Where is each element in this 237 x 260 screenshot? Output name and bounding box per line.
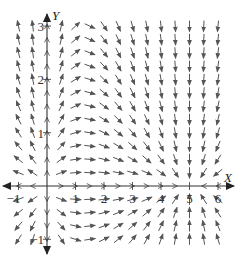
slope-arrow bbox=[16, 101, 20, 111]
slope-arrow bbox=[131, 61, 135, 71]
slope-arrow bbox=[159, 234, 163, 244]
slope-arrow bbox=[17, 47, 20, 58]
slope-arrow bbox=[71, 36, 79, 43]
slope-arrow bbox=[99, 224, 109, 228]
slope-arrow bbox=[215, 208, 221, 217]
slope-arrow bbox=[17, 88, 21, 98]
slope-arrow bbox=[101, 22, 107, 31]
slope-arrow bbox=[175, 87, 176, 98]
slope-arrow bbox=[144, 114, 149, 124]
slope-arrow bbox=[57, 209, 66, 215]
slope-arrow bbox=[31, 101, 34, 112]
slope-arrow bbox=[160, 74, 162, 85]
slope-arrow bbox=[99, 144, 109, 148]
slope-arrow bbox=[84, 159, 95, 160]
slope-arrow bbox=[70, 212, 81, 214]
slope-arrow bbox=[71, 49, 80, 56]
slope-arrow bbox=[70, 172, 81, 173]
slope-arrow bbox=[203, 127, 205, 138]
slope-arrow bbox=[131, 21, 134, 32]
x-axis-label: X bbox=[223, 170, 233, 185]
slope-arrow bbox=[70, 159, 81, 161]
x-tick-label: 3 bbox=[129, 191, 136, 206]
slope-arrow bbox=[32, 34, 33, 45]
slope-arrow bbox=[217, 114, 220, 125]
slope-arrow bbox=[146, 47, 148, 58]
slope-arrow bbox=[143, 209, 151, 216]
slope-arrow bbox=[71, 77, 80, 83]
slope-arrow bbox=[201, 195, 207, 204]
slope-arrow bbox=[100, 49, 107, 57]
slope-arrow bbox=[203, 114, 204, 125]
slope-arrow bbox=[159, 141, 164, 151]
slope-arrow bbox=[70, 131, 81, 134]
slope-arrow bbox=[173, 207, 177, 217]
slope-arrow bbox=[158, 155, 164, 164]
slope-arrow bbox=[127, 171, 138, 174]
slope-arrow bbox=[216, 127, 219, 138]
slope-arrow bbox=[160, 101, 163, 112]
slope-arrow bbox=[145, 88, 148, 98]
slope-arrow bbox=[203, 47, 204, 58]
slope-arrow bbox=[15, 142, 22, 150]
slope-arrow bbox=[115, 88, 121, 97]
slope-arrow bbox=[128, 142, 136, 149]
y-tick-label: 1 bbox=[38, 126, 45, 141]
slope-arrow bbox=[217, 47, 218, 58]
x-tick-label: 5 bbox=[186, 191, 193, 206]
x-tick-label: 4 bbox=[158, 191, 165, 206]
slope-arrow bbox=[14, 156, 23, 163]
slope-arrow bbox=[32, 61, 34, 72]
slope-arrow bbox=[142, 197, 152, 201]
slope-arrow bbox=[130, 88, 135, 98]
slope-arrow bbox=[99, 172, 110, 173]
slope-arrow bbox=[71, 104, 81, 109]
slope-arrow bbox=[203, 34, 204, 45]
slope-arrow bbox=[56, 171, 66, 175]
slope-arrow bbox=[143, 156, 151, 163]
slope-arrow bbox=[114, 143, 123, 149]
slope-arrow bbox=[217, 101, 219, 112]
slope-arrow bbox=[99, 237, 109, 242]
slope-arrow bbox=[174, 234, 176, 245]
slope-arrow bbox=[85, 64, 95, 68]
slope-arrow bbox=[70, 145, 81, 147]
slope-arrow bbox=[130, 74, 134, 84]
slope-arrow bbox=[172, 168, 178, 177]
slope-arrow bbox=[14, 209, 23, 216]
slope-arrow bbox=[114, 129, 123, 136]
y-tick-label: 2 bbox=[38, 72, 45, 87]
slope-arrow bbox=[175, 61, 176, 72]
slope-arrow bbox=[203, 141, 205, 152]
y-axis-label: Y bbox=[52, 8, 61, 23]
slope-arrow bbox=[114, 223, 123, 229]
slope-arrow bbox=[175, 74, 176, 85]
slope-arrow bbox=[175, 114, 176, 125]
slope-arrow bbox=[143, 222, 150, 231]
slope-arrow bbox=[175, 47, 176, 58]
slope-arrow bbox=[32, 47, 34, 58]
slope-arrow bbox=[17, 21, 19, 32]
slope-arrow bbox=[116, 48, 121, 58]
slope-arrow bbox=[16, 235, 22, 244]
slope-arrow bbox=[159, 128, 163, 138]
slope-arrow bbox=[203, 74, 204, 85]
slope-arrow bbox=[142, 170, 152, 174]
slope-arrow bbox=[203, 234, 205, 245]
slope-arrow bbox=[175, 34, 176, 45]
slope-arrow bbox=[203, 87, 204, 98]
slope-arrow bbox=[100, 76, 108, 84]
slope-arrow bbox=[175, 101, 176, 112]
slope-arrow bbox=[70, 225, 81, 227]
slope-arrow bbox=[203, 221, 205, 232]
slope-arrow bbox=[146, 34, 148, 45]
slope-arrow bbox=[31, 128, 35, 138]
slope-arrow bbox=[145, 74, 148, 85]
slope-arrow bbox=[32, 87, 34, 98]
slope-arrow bbox=[129, 235, 136, 243]
slope-arrow bbox=[128, 222, 136, 229]
slope-arrow bbox=[17, 34, 19, 45]
slope-arrow bbox=[144, 235, 150, 245]
slope-arrow bbox=[202, 207, 205, 217]
slope-arrow bbox=[113, 172, 124, 174]
